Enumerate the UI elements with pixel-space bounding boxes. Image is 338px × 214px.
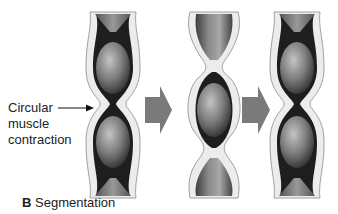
arrow-right-icon-1: [145, 86, 172, 134]
annotation-line-3: contraction: [8, 132, 72, 148]
arrow-right-icon-2: [242, 86, 270, 134]
annotation-line-2: muscle: [8, 116, 72, 132]
annotation-label: Circular muscle contraction: [8, 100, 72, 148]
stage-3-tube: [270, 12, 324, 198]
figure-caption: B Segmentation: [22, 195, 115, 210]
caption-text: Segmentation: [35, 195, 115, 210]
annotation-line-1: Circular: [8, 100, 72, 116]
stage-2-tube: [188, 12, 240, 198]
stage-1-tube: [86, 12, 140, 198]
panel-letter: B: [22, 195, 31, 210]
